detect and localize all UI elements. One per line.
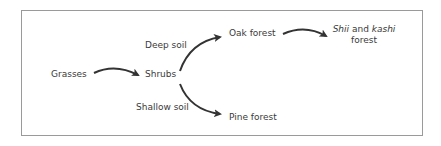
node-oak-forest: Oak forest: [229, 28, 276, 39]
kashi-text: kashi: [372, 24, 396, 34]
node-shrubs: Shrubs: [145, 69, 176, 80]
arrow-grasses-to-shrubs: [94, 68, 138, 75]
edge-label-deep-soil: Deep soil: [145, 40, 187, 51]
and-text: and: [349, 24, 372, 34]
node-shii-kashi-line1: Shii and kashi: [330, 24, 398, 35]
node-shii-kashi-forest: Shii and kashi forest: [330, 24, 398, 46]
edge-label-shallow-soil: Shallow soil: [136, 102, 189, 113]
arrow-oak-to-shii: [283, 29, 326, 36]
shii-text: Shii: [333, 24, 349, 34]
node-grasses: Grasses: [51, 69, 87, 80]
node-pine-forest: Pine forest: [229, 112, 277, 123]
node-shii-kashi-line2: forest: [330, 35, 398, 46]
